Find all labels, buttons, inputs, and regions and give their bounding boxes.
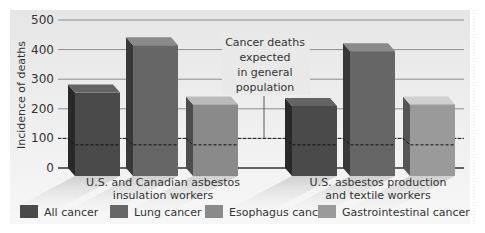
bar [403, 96, 455, 176]
legend-swatch [20, 205, 38, 218]
y-tick-label: 300 [31, 72, 54, 86]
group-label: and textile workers [325, 189, 431, 202]
legend: All cancerLung cancerEsophagus cancerGas… [20, 205, 470, 219]
bar-side [403, 96, 410, 176]
bar-front [193, 104, 238, 176]
legend-swatch [318, 205, 336, 218]
legend-swatch [205, 205, 223, 218]
bar-top [285, 98, 337, 106]
legend-label: All cancer [44, 206, 99, 219]
bar-side [343, 43, 350, 176]
chart: 0100200300400500 Incidence of deaths Can… [0, 0, 485, 233]
bar-side [285, 98, 292, 176]
bar-front [410, 104, 455, 176]
bar-front [350, 51, 395, 176]
bar-front [133, 45, 178, 176]
bar-side [126, 37, 133, 176]
legend-item: Lung cancer [110, 205, 202, 219]
group-label: U.S. asbestos production [310, 176, 447, 189]
bar-top [343, 43, 395, 51]
group-label: insulation workers [113, 189, 214, 202]
bar [68, 85, 120, 176]
bar-top [126, 37, 178, 45]
bar-front [292, 106, 337, 176]
bar [186, 96, 238, 176]
bar [126, 37, 178, 176]
y-tick-label: 500 [31, 13, 54, 27]
legend-label: Gastrointestinal cancer [342, 206, 470, 219]
legend-label: Lung cancer [134, 206, 202, 219]
bar-front [75, 93, 120, 176]
legend-swatch [110, 205, 128, 218]
bar-side [68, 85, 75, 176]
annotation-text: expected [240, 51, 291, 64]
bar [343, 43, 395, 176]
y-tick-label: 100 [31, 131, 54, 145]
annotation-text: Cancer deaths [225, 36, 305, 49]
y-tick-label: 400 [31, 43, 54, 57]
bar-top [68, 85, 120, 93]
y-axis-label: Incidence of deaths [15, 41, 28, 149]
bar-top [186, 96, 238, 104]
group-label: U.S. and Canadian asbestos [86, 176, 240, 189]
annotation-text: population [236, 81, 295, 94]
bar-top [403, 96, 455, 104]
y-tick-label: 0 [46, 161, 54, 175]
legend-label: Esophagus cancer [229, 206, 330, 219]
bar-side [186, 96, 193, 176]
y-tick-label: 200 [31, 102, 54, 116]
legend-item: All cancer [20, 205, 99, 219]
bar [285, 98, 337, 176]
annotation-text: in general [237, 66, 292, 79]
